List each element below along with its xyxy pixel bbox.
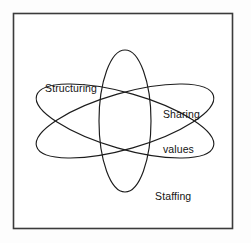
diagram-figure: Structuring Sharing values Staffing (0, 0, 251, 243)
label-staffing: Staffing (143, 179, 191, 214)
label-staffing-text: Staffing (155, 190, 191, 202)
label-sharing-values-line1: Sharing (163, 109, 200, 121)
diagram-canvas (0, 0, 251, 243)
label-sharing-values-line2: values (163, 144, 200, 156)
label-structuring: Structuring (33, 71, 97, 106)
label-structuring-text: Structuring (45, 82, 97, 94)
label-sharing-values: Sharing values (163, 86, 200, 178)
